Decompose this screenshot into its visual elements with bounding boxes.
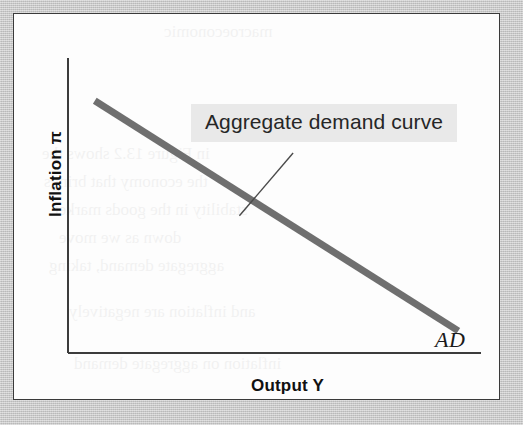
chart-panel: macroeconomic in Figure 13.2 shows the t…: [13, 13, 500, 400]
figure-container: macroeconomic in Figure 13.2 shows the t…: [0, 0, 523, 425]
plot-area: [14, 14, 500, 400]
x-axis-title: Output Y: [81, 376, 494, 396]
y-axis-title: Inflation π: [46, 114, 66, 234]
curve-label-ad: AD: [435, 327, 465, 353]
annotation-aggregate-demand-curve: Aggregate demand curve: [191, 104, 457, 142]
